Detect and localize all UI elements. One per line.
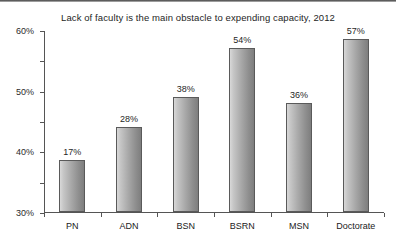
bar <box>116 127 142 212</box>
bar-group: 28% <box>116 31 142 212</box>
bar <box>59 160 85 212</box>
bar-group: 17% <box>59 31 85 212</box>
bar <box>173 97 199 212</box>
y-tick-label: 60% <box>16 26 34 36</box>
y-tick-label: 40% <box>16 147 34 157</box>
bar <box>286 103 312 212</box>
x-tick <box>214 213 215 217</box>
x-category-label: PN <box>66 221 79 231</box>
x-tick <box>44 213 45 217</box>
x-category-label: ADN <box>119 221 138 231</box>
bar <box>343 39 369 212</box>
bar-group: 57% <box>343 31 369 212</box>
bar-value-label: 17% <box>63 147 81 157</box>
x-tick <box>384 213 385 217</box>
x-tick <box>101 213 102 217</box>
y-tick: 20% <box>40 152 44 153</box>
plot-area: 0%10%20%30%40%50%60% 17%28%38%54%36%57% … <box>44 31 384 213</box>
y-tick: 10% <box>40 183 44 184</box>
x-category-label: MSN <box>289 221 309 231</box>
page-top-rule <box>0 0 396 2</box>
y-tick: 40% <box>40 92 44 93</box>
y-tick: 50% <box>40 61 44 62</box>
y-axis-line <box>44 31 45 213</box>
y-tick: 60% <box>40 31 44 32</box>
x-tick <box>157 213 158 217</box>
x-category-label: Doctorate <box>336 221 375 231</box>
y-tick-label: 50% <box>16 87 34 97</box>
x-category-label: BSN <box>176 221 195 231</box>
bar-value-label: 28% <box>120 114 138 124</box>
bar-value-label: 54% <box>233 35 251 45</box>
y-tick-label: 30% <box>16 208 34 218</box>
x-tick <box>327 213 328 217</box>
bar-group: 54% <box>229 31 255 212</box>
bar-group: 38% <box>173 31 199 212</box>
bar <box>229 48 255 212</box>
bar-value-label: 36% <box>290 90 308 100</box>
bar-value-label: 57% <box>347 26 365 36</box>
bar-value-label: 38% <box>177 84 195 94</box>
x-category-label: BSRN <box>230 221 255 231</box>
bar-group: 36% <box>286 31 312 212</box>
chart-page: Lack of faculty is the main obstacle to … <box>0 0 396 245</box>
y-tick: 30% <box>40 122 44 123</box>
x-tick <box>271 213 272 217</box>
chart-title: Lack of faculty is the main obstacle to … <box>0 12 396 23</box>
